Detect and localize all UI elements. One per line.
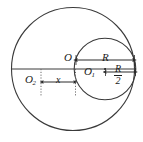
label-center-O2: O2 [25, 74, 36, 85]
label-distance-x: x [56, 75, 60, 85]
label-radius-R: R [102, 52, 109, 63]
label-center-O1: O1 [84, 66, 95, 77]
geometry-figure: O O1 O2 R x R 2 [0, 0, 143, 142]
fraction-numerator: R [114, 64, 122, 74]
fraction-denominator: 2 [114, 76, 122, 86]
label-center-O1-subscript: 1 [91, 71, 94, 78]
label-half-radius-fraction: R 2 [114, 64, 122, 86]
label-center-O2-subscript: 2 [32, 79, 35, 86]
label-center-O: O [64, 52, 72, 63]
